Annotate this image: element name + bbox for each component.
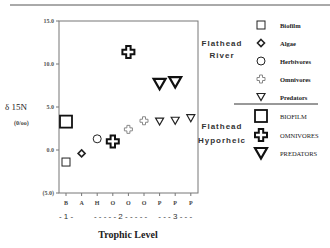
legend: BiofilmAlgaeHerbivoresOmnivoresPredators… bbox=[198, 21, 319, 159]
legend-group-label: Flathead bbox=[202, 122, 243, 131]
triangle-down-icon bbox=[171, 117, 179, 124]
square-large-marker-icon bbox=[255, 110, 267, 122]
data-point bbox=[169, 77, 181, 88]
data-point bbox=[154, 79, 166, 90]
cross-icon bbox=[257, 75, 265, 83]
diamond-icon bbox=[78, 150, 85, 157]
y-tick-label: 0.0 bbox=[47, 147, 55, 153]
data-point bbox=[93, 135, 101, 143]
data-point bbox=[187, 115, 195, 122]
x-tick-label: O bbox=[110, 200, 115, 206]
triangle-down-icon bbox=[257, 94, 265, 101]
data-point bbox=[60, 116, 72, 128]
data-point bbox=[171, 117, 179, 124]
triangle-down-icon bbox=[154, 79, 166, 90]
legend-group-label: River bbox=[209, 51, 234, 60]
square-small-marker-icon bbox=[257, 21, 265, 29]
y-tick-label: 15.0 bbox=[44, 18, 55, 24]
x-tick-label: B bbox=[64, 200, 68, 206]
legend-label: Algae bbox=[280, 40, 296, 47]
y-axis-title: δ 15N bbox=[5, 102, 27, 112]
legend-label: BIOFILM bbox=[280, 113, 307, 120]
legend-group-label: Flathead bbox=[202, 39, 243, 48]
y-tick-label: 10.0 bbox=[44, 61, 55, 67]
legend-label: Herbivores bbox=[280, 58, 311, 65]
cross-icon bbox=[107, 135, 119, 147]
trophic-group-label: - - - - - 2 - - - - - bbox=[94, 212, 148, 221]
triangle-small-marker-icon bbox=[257, 94, 265, 101]
data-point bbox=[124, 125, 132, 133]
circle-icon bbox=[93, 135, 101, 143]
circle-small-marker-icon bbox=[257, 57, 265, 65]
square-icon bbox=[257, 21, 265, 29]
legend-label: PREDATORS bbox=[280, 150, 317, 157]
cross-icon bbox=[140, 117, 148, 125]
scatter-chart: 15.010.05.00.0(5.0)BAHOOOPPP- 1 -- - - -… bbox=[0, 0, 330, 248]
legend-label: Omnivores bbox=[280, 76, 311, 83]
trophic-group-label: - - - 3 - - - bbox=[158, 212, 192, 221]
x-tick-label: O bbox=[126, 200, 131, 206]
square-icon bbox=[62, 158, 70, 166]
data-point bbox=[140, 117, 148, 125]
triangle-down-icon bbox=[156, 118, 164, 125]
cross-icon bbox=[122, 46, 134, 58]
x-tick-label: P bbox=[189, 200, 193, 206]
data-point bbox=[62, 158, 70, 166]
legend-label: Biofilm bbox=[280, 22, 301, 29]
cross-small-marker-icon bbox=[257, 75, 265, 83]
x-tick-label: P bbox=[158, 200, 162, 206]
legend-label: OMNIVORES bbox=[280, 132, 319, 139]
cross-icon bbox=[255, 129, 267, 141]
triangle-down-icon bbox=[255, 148, 267, 159]
data-point bbox=[122, 46, 134, 58]
plot-area: 15.010.05.00.0(5.0)BAHOOOPPP- 1 -- - - -… bbox=[5, 18, 198, 240]
legend-label: Predators bbox=[280, 94, 308, 101]
trophic-group-label: - 1 - bbox=[59, 212, 74, 221]
data-point bbox=[107, 135, 119, 147]
triangle-large-marker-icon bbox=[255, 148, 267, 159]
y-axis-units: (0/oo) bbox=[14, 120, 29, 127]
cross-icon bbox=[124, 125, 132, 133]
x-axis-title: Trophic Level bbox=[98, 229, 158, 240]
x-tick-label: P bbox=[173, 200, 177, 206]
x-tick-label: A bbox=[79, 200, 84, 206]
y-tick-label: 5.0 bbox=[47, 104, 55, 110]
x-tick-label: H bbox=[95, 200, 100, 206]
triangle-down-icon bbox=[169, 77, 181, 88]
data-point bbox=[156, 118, 164, 125]
circle-icon bbox=[257, 57, 265, 65]
diamond-small-marker-icon bbox=[258, 40, 265, 47]
legend-group-label: Hyporheic bbox=[198, 136, 246, 145]
square-icon bbox=[60, 116, 72, 128]
cross-large-marker-icon bbox=[255, 129, 267, 141]
data-point bbox=[78, 150, 85, 157]
diamond-icon bbox=[258, 40, 265, 47]
triangle-down-icon bbox=[187, 115, 195, 122]
y-tick-label: (5.0) bbox=[43, 190, 55, 197]
square-icon bbox=[255, 110, 267, 122]
x-tick-label: O bbox=[142, 200, 147, 206]
